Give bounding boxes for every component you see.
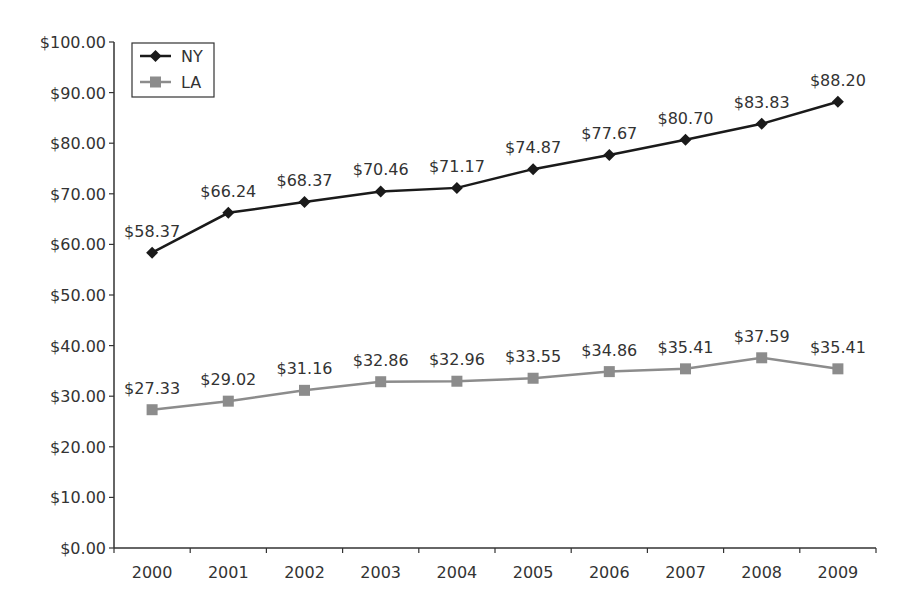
y-tick-label: $80.00 [50,134,106,153]
diamond-marker-icon [832,96,844,108]
diamond-marker-icon [756,118,768,130]
legend-label-la: LA [181,73,201,92]
diamond-marker-icon [299,196,311,208]
data-label: $70.46 [353,160,409,179]
data-label: $80.70 [658,109,714,128]
x-tick-label: 2005 [513,563,554,582]
x-tick-label: 2001 [208,563,249,582]
square-marker-icon [451,376,462,387]
data-label: $71.17 [429,157,485,176]
chart-canvas: $0.00$10.00$20.00$30.00$40.00$50.00$60.0… [0,0,906,609]
data-label: $27.33 [124,379,180,398]
y-tick-label: $70.00 [50,185,106,204]
data-label: $77.67 [581,124,637,143]
data-label: $34.86 [581,341,637,360]
square-marker-icon [223,396,234,407]
square-marker-icon [604,366,615,377]
x-tick-label: 2009 [818,563,859,582]
data-label: $68.37 [277,171,333,190]
data-label: $29.02 [200,370,256,389]
square-marker-icon [299,385,310,396]
diamond-marker-icon [146,247,158,259]
x-tick-label: 2003 [360,563,401,582]
y-tick-label: $10.00 [50,488,106,507]
data-label: $32.96 [429,350,485,369]
series-line [152,102,838,253]
square-marker-icon [680,363,691,374]
diamond-marker-icon [451,182,463,194]
x-tick-label: 2008 [741,563,782,582]
y-tick-label: $50.00 [50,286,106,305]
data-label: $32.86 [353,351,409,370]
square-marker-icon [528,373,539,384]
y-tick-label: $0.00 [60,539,106,558]
square-marker-icon [147,404,158,415]
diamond-marker-icon [375,185,387,197]
square-marker-icon [832,363,843,374]
data-label: $35.41 [810,338,866,357]
y-tick-label: $90.00 [50,84,106,103]
diamond-marker-icon [527,163,539,175]
diamond-marker-icon [680,134,692,146]
data-label: $58.37 [124,222,180,241]
data-label: $33.55 [505,347,561,366]
square-marker-icon [150,77,161,88]
data-label: $88.20 [810,71,866,90]
legend: NY LA [132,43,214,97]
data-label: $83.83 [734,93,790,112]
y-tick-label: $20.00 [50,438,106,457]
line-chart: $0.00$10.00$20.00$30.00$40.00$50.00$60.0… [0,0,906,609]
data-label: $35.41 [658,338,714,357]
data-label: $74.87 [505,138,561,157]
square-marker-icon [756,352,767,363]
data-labels: $58.37$66.24$68.37$70.46$71.17$74.87$77.… [124,71,866,398]
y-tick-label: $60.00 [50,235,106,254]
x-tick-label: 2004 [437,563,478,582]
series-lines [146,96,844,416]
series-ny [146,96,844,259]
diamond-marker-icon [603,149,615,161]
x-tick-label: 2000 [132,563,173,582]
data-label: $37.59 [734,327,790,346]
data-label: $31.16 [277,359,333,378]
y-tick-label: $40.00 [50,337,106,356]
diamond-marker-icon [222,207,234,219]
axes: $0.00$10.00$20.00$30.00$40.00$50.00$60.0… [40,33,876,582]
x-tick-label: 2006 [589,563,630,582]
x-tick-label: 2007 [665,563,706,582]
y-tick-label: $30.00 [50,387,106,406]
data-label: $66.24 [200,182,256,201]
y-tick-label: $100.00 [40,33,106,52]
legend-label-ny: NY [181,47,203,66]
x-tick-label: 2002 [284,563,325,582]
square-marker-icon [375,376,386,387]
